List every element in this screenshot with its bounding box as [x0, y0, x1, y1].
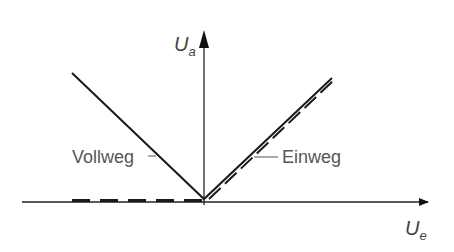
y-axis-arrow-icon	[199, 30, 209, 48]
x-axis-label-main: U	[405, 217, 419, 239]
einweg-curve-positive	[209, 78, 336, 199]
vollweg-label: Vollweg	[72, 148, 134, 166]
y-axis-label-subscript: a	[188, 44, 195, 59]
diagram-canvas	[0, 0, 454, 252]
x-axis-label-subscript: e	[419, 228, 426, 243]
einweg-label: Einweg	[282, 148, 341, 166]
x-axis-label: Ue	[405, 218, 427, 242]
y-axis-label-main: U	[174, 33, 188, 55]
y-axis-label: Ua	[174, 34, 196, 58]
vollweg-curve	[72, 73, 332, 199]
